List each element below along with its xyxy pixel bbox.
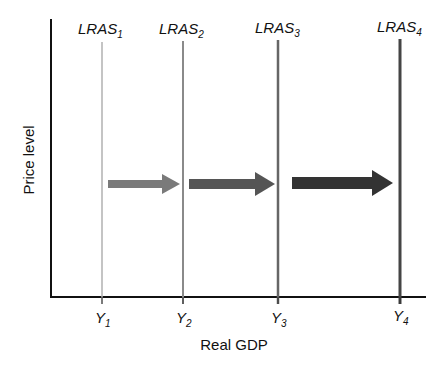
tick-label-y1: Y1 [95, 309, 111, 329]
shift-arrow-1 [108, 174, 180, 194]
lras-3-label: LRAS3 [255, 19, 300, 39]
lras-4-label: LRAS4 [377, 18, 422, 38]
tick-label-y2: Y2 [176, 309, 192, 329]
x-axis-label: Real GDP [200, 336, 268, 353]
y-axis-label: Price level [20, 125, 37, 194]
lras-diagram: Price level Real GDP LRAS1 LRAS2 LRAS3 L… [0, 0, 447, 371]
tick-label-y4: Y4 [393, 307, 409, 327]
tick-label-y3: Y3 [271, 309, 287, 329]
shift-arrow-3 [292, 170, 393, 196]
lras-2-label: LRAS2 [159, 20, 204, 40]
lras-1-label: LRAS1 [78, 20, 123, 40]
shift-arrow-2 [189, 172, 275, 196]
